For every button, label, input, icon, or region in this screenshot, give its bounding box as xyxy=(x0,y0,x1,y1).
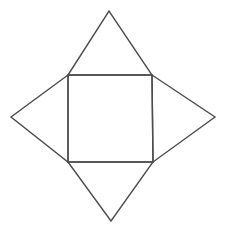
pyramid-net-diagram xyxy=(0,0,226,235)
top-triangle-face xyxy=(68,11,152,75)
left-triangle-face xyxy=(11,75,68,162)
pyramid-net-svg xyxy=(0,0,226,235)
bottom-triangle-face xyxy=(68,162,153,221)
right-triangle-face xyxy=(152,75,215,162)
square-base-face xyxy=(68,75,153,162)
